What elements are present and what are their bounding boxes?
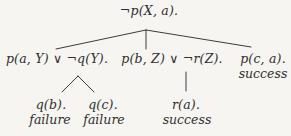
status-qb-failure: failure [29,113,71,127]
node-pca: p(c, a). [240,52,286,66]
status-pca-success: success [239,67,288,81]
node-pbZ-rZ: p(b, Z) ∨ ¬r(Z). [121,52,223,66]
node-qb: q(b). [36,98,67,112]
edge-left-to-qc [78,76,94,92]
sld-tree-diagram: ¬p(X, a). p(a, Y) ∨ ¬q(Y). p(b, Z) ∨ ¬r(… [0,0,291,136]
status-ra-success: success [163,113,212,127]
node-ra: r(a). [172,98,200,112]
edge-root-to-right-child [146,30,251,47]
node-paY-qY: p(a, Y) ∨ ¬q(Y). [6,52,108,66]
node-root: ¬p(X, a). [120,4,178,18]
node-qc: q(c). [88,98,118,112]
status-qc-failure: failure [83,113,125,127]
edge-left-to-qb [62,76,78,92]
edge-root-to-left-child [56,30,146,49]
